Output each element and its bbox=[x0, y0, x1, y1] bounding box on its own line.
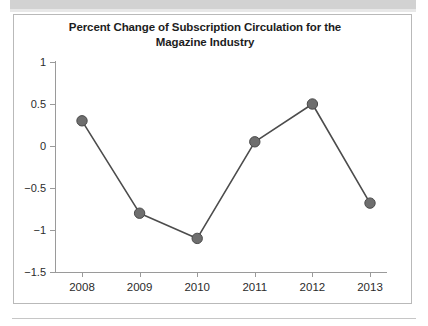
scan-banner-shadow bbox=[10, 9, 416, 12]
x-tick-label: 2011 bbox=[225, 281, 285, 293]
y-tick-mark bbox=[50, 188, 55, 189]
y-tick-label: −0.5 bbox=[12, 182, 46, 194]
chart-figure-frame bbox=[13, 14, 412, 304]
y-tick-label: 0.5 bbox=[12, 98, 46, 110]
x-axis-line bbox=[55, 272, 387, 273]
x-tick-label: 2009 bbox=[110, 281, 170, 293]
page-divider-rule bbox=[12, 318, 416, 319]
x-tick-label: 2008 bbox=[52, 281, 112, 293]
x-tick-mark bbox=[312, 272, 313, 277]
y-tick-label: 1 bbox=[12, 56, 46, 68]
chart-title-line-1: Percent Change of Subscription Circulati… bbox=[40, 20, 370, 35]
x-tick-mark bbox=[370, 272, 371, 277]
x-tick-mark bbox=[197, 272, 198, 277]
x-tick-mark bbox=[82, 272, 83, 277]
chart-title: Percent Change of Subscription Circulati… bbox=[40, 20, 370, 50]
x-tick-label: 2012 bbox=[282, 281, 342, 293]
y-tick-mark bbox=[50, 272, 55, 273]
chart-title-line-2: Magazine Industry bbox=[40, 35, 370, 50]
x-tick-mark bbox=[255, 272, 256, 277]
x-tick-label: 2013 bbox=[340, 281, 400, 293]
y-tick-mark bbox=[50, 62, 55, 63]
y-tick-label: 0 bbox=[12, 140, 46, 152]
y-tick-mark bbox=[50, 104, 55, 105]
y-tick-mark bbox=[50, 146, 55, 147]
y-tick-label: −1.5 bbox=[12, 266, 46, 278]
scan-banner-strip bbox=[10, 0, 416, 9]
y-tick-mark bbox=[50, 230, 55, 231]
x-tick-label: 2010 bbox=[167, 281, 227, 293]
y-axis-line bbox=[55, 61, 56, 273]
y-tick-label: −1 bbox=[12, 224, 46, 236]
x-tick-mark bbox=[140, 272, 141, 277]
